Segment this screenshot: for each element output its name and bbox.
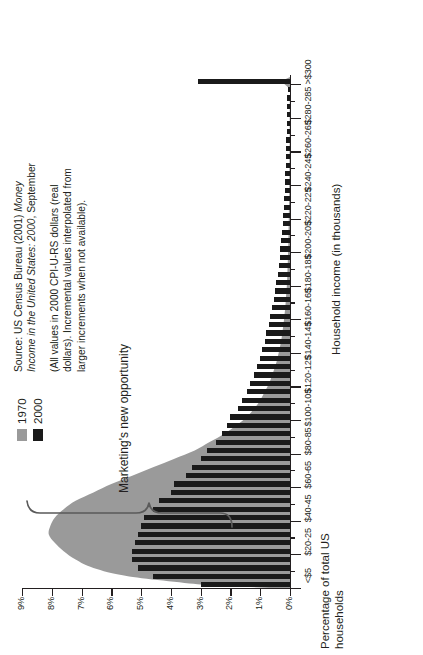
x-tick-label: >$300 — [303, 59, 313, 84]
bar — [135, 540, 290, 545]
x-tick-major — [290, 286, 301, 287]
y-tick-label: 8% — [46, 597, 56, 637]
bar — [270, 314, 290, 319]
bar — [227, 423, 290, 428]
bar — [216, 440, 290, 445]
x-tick-major — [290, 420, 301, 421]
x-tick-minor — [290, 470, 295, 471]
bar — [272, 305, 290, 310]
x-tick-minor — [290, 202, 295, 203]
x-tick-major — [290, 84, 301, 85]
y-tick — [141, 589, 142, 596]
x-tick-minor — [290, 302, 295, 303]
x-tick-major — [290, 487, 301, 488]
x-tick-label: $180-185 — [303, 255, 313, 293]
x-tick-major — [290, 454, 301, 455]
x-tick-major — [290, 252, 301, 253]
x-tick-minor — [290, 537, 295, 538]
legend-item-2000: 2000 — [32, 398, 44, 441]
bar — [144, 515, 290, 520]
bar — [257, 364, 290, 369]
x-tick-label: <$5 — [303, 568, 313, 583]
bar — [247, 389, 290, 394]
x-tick-minor — [290, 101, 295, 102]
bar — [171, 490, 290, 495]
y-tick-label: 6% — [105, 597, 115, 637]
bar — [192, 465, 290, 470]
x-tick-label: $220-225 — [303, 187, 313, 225]
bar — [282, 230, 290, 235]
source-note-prefix: Source: US Census Bureau (2001) — [13, 212, 24, 372]
x-tick-label: $80-85 — [303, 427, 313, 455]
y-tick — [22, 589, 23, 596]
bar — [283, 221, 290, 226]
x-tick-major — [290, 118, 301, 119]
y-tick — [52, 589, 53, 596]
x-tick-major — [290, 521, 301, 522]
y-tick — [290, 589, 291, 596]
legend-swatch-2000 — [33, 429, 43, 441]
bar — [280, 255, 290, 260]
y-tick — [260, 589, 261, 596]
bar — [153, 507, 290, 512]
bar — [254, 372, 290, 377]
x-axis-title: Household income (in thousands) — [330, 184, 342, 355]
y-tick-label: 5% — [135, 597, 145, 637]
bar — [266, 330, 290, 335]
legend-label-2000: 2000 — [32, 398, 44, 424]
x-tick-minor — [290, 135, 295, 136]
legend-item-1970: 1970 — [16, 398, 28, 441]
y-tick — [171, 589, 172, 596]
x-tick-minor — [290, 168, 295, 169]
y-tick-label: 3% — [195, 597, 205, 637]
bar — [222, 431, 290, 436]
y-tick-label: 2% — [224, 597, 234, 637]
bar — [242, 398, 290, 403]
source-note-paragraph-1: Source: US Census Bureau (2001) Money In… — [12, 162, 39, 372]
legend-label-1970: 1970 — [16, 398, 28, 424]
x-tick-label: $200-205 — [303, 221, 313, 259]
y-tick-label: 0% — [284, 597, 294, 637]
y-axis-line — [22, 588, 291, 589]
x-tick-minor — [290, 336, 295, 337]
source-note-suffix: , September — [26, 163, 37, 219]
y-tick — [82, 589, 83, 596]
source-note-paragraph-2: (All values in 2000 CPI-U-RS dollars (re… — [48, 162, 88, 372]
bar — [201, 456, 290, 461]
bar — [153, 574, 290, 579]
legend: 1970 2000 — [16, 398, 48, 441]
bar — [276, 280, 290, 285]
x-tick-minor — [290, 403, 295, 404]
bar — [132, 557, 290, 562]
x-tick-major — [290, 386, 301, 387]
bar — [280, 246, 290, 251]
x-tick-major — [290, 219, 301, 220]
chart-figure: <$5$20-25$40-45$60-65$80-85$100-105$120-… — [0, 0, 423, 655]
x-tick-major — [290, 353, 301, 354]
x-tick-minor — [290, 571, 295, 572]
bar — [198, 79, 290, 84]
bar — [265, 339, 290, 344]
bar — [238, 406, 290, 411]
y-tick-label: 9% — [16, 597, 26, 637]
x-tick-label: $40-45 — [303, 495, 313, 523]
bar — [230, 414, 290, 419]
x-tick-minor — [290, 504, 295, 505]
y-tick-label: 1% — [254, 597, 264, 637]
bar — [279, 263, 290, 268]
y-tick-label: 4% — [165, 597, 175, 637]
x-tick-major — [290, 588, 301, 589]
bar — [283, 213, 290, 218]
bar — [260, 356, 290, 361]
x-tick-label: $280-285 — [303, 87, 313, 125]
x-tick-label: $60-65 — [303, 461, 313, 489]
x-tick-label: $260-265 — [303, 120, 313, 158]
x-tick-major — [290, 319, 301, 320]
bar — [278, 272, 291, 277]
bar — [207, 448, 290, 453]
source-note: Source: US Census Bureau (2001) Money In… — [12, 162, 88, 372]
bar — [274, 297, 290, 302]
bar — [174, 482, 290, 487]
y-tick — [230, 589, 231, 596]
bar — [186, 473, 290, 478]
